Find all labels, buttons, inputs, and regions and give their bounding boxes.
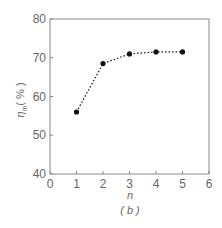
y-axis-label: ηm( % ) — [14, 82, 28, 117]
x-tick-label: 1 — [73, 177, 80, 191]
figure-caption: ( b ) — [120, 204, 140, 216]
data-point — [180, 49, 185, 54]
y-tick-label: 50 — [33, 128, 47, 142]
x-tick-label: 4 — [153, 177, 160, 191]
plot-frame — [50, 19, 209, 174]
x-tick-label: 5 — [179, 177, 186, 191]
y-tick-label: 60 — [33, 90, 47, 104]
x-axis-label: n — [127, 189, 133, 201]
y-label-unit: ( % ) — [14, 82, 26, 105]
chart: 4050607080 0123456 n ( b ) ηm( % ) — [0, 0, 222, 228]
plot-border — [50, 19, 209, 174]
y-tick-label: 70 — [33, 51, 47, 65]
x-tick-label: 6 — [206, 177, 213, 191]
x-tick-label: 0 — [47, 177, 54, 191]
data-point — [74, 109, 79, 114]
data-point — [127, 51, 132, 56]
series-line — [77, 52, 183, 112]
data-point — [100, 61, 105, 66]
data-point — [153, 49, 158, 54]
svg-text:ηm( % ): ηm( % ) — [14, 82, 28, 117]
y-tick-label: 40 — [33, 167, 47, 181]
x-tick-label: 2 — [100, 177, 107, 191]
data-series — [74, 49, 185, 114]
y-tick-label: 80 — [33, 12, 47, 26]
